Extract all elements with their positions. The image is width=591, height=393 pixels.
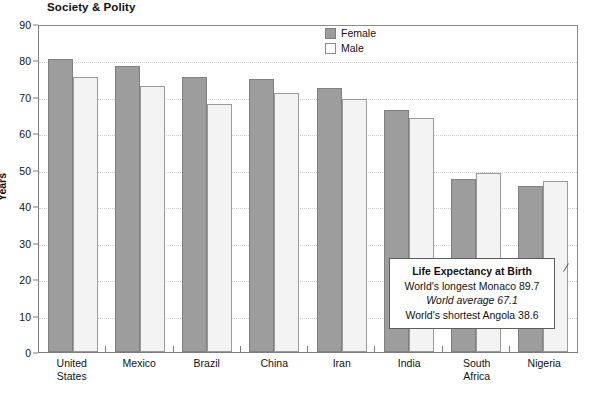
callout-longest: World's longest Monaco 89.7 (396, 279, 548, 294)
bar-female[interactable] (317, 88, 342, 352)
y-axis-tick-label: 20 (19, 274, 31, 286)
x-axis-labels: UnitedStatesMexicoBrazilChinaIranIndiaSo… (38, 355, 578, 391)
legend-label-male: Male (341, 42, 364, 54)
scan-artifact-icon (562, 262, 570, 273)
legend-swatch-female-icon (325, 28, 336, 39)
y-axis: Years 0102030405060708090 (0, 25, 38, 353)
y-axis-tick-label: 40 (19, 201, 31, 213)
bar-female[interactable] (48, 59, 73, 352)
callout-average: World average 67.1 (396, 293, 548, 308)
bar-female[interactable] (115, 66, 140, 352)
bar-male[interactable] (73, 77, 98, 352)
y-axis-tick-label: 50 (19, 165, 31, 177)
y-axis-tick-label: 30 (19, 238, 31, 250)
chart-page: Society & Polity Years 01020304050607080… (0, 0, 591, 393)
legend-item-male: Male (325, 42, 376, 54)
x-axis-label: China (241, 355, 309, 391)
bar-male[interactable] (207, 104, 232, 352)
callout-shortest: World's shortest Angola 38.6 (396, 308, 548, 323)
bar-female[interactable] (182, 77, 207, 352)
y-axis-tick-label: 60 (19, 128, 31, 140)
x-axis-label: SouthAfrica (443, 355, 511, 391)
y-axis-tick-label: 0 (25, 347, 31, 359)
x-axis-label: Nigeria (511, 355, 579, 391)
callout-title: Life Expectancy at Birth (396, 264, 548, 279)
x-axis-label: Iran (308, 355, 376, 391)
y-axis-tick-label: 10 (19, 311, 31, 323)
bar-group (241, 26, 308, 352)
page-title: Society & Polity (47, 1, 136, 13)
y-axis-tick-label: 80 (19, 55, 31, 67)
bar-group (39, 26, 106, 352)
bar-male[interactable] (342, 99, 367, 352)
callout-box: Life Expectancy at Birth World's longest… (389, 258, 555, 329)
bar-group (308, 26, 375, 352)
bar-group (106, 26, 173, 352)
legend-label-female: Female (341, 27, 376, 39)
legend-swatch-male-icon (325, 43, 336, 54)
bar-female[interactable] (249, 79, 274, 352)
legend-item-female: Female (325, 27, 376, 39)
x-axis-label: UnitedStates (38, 355, 106, 391)
y-axis-title: Years (0, 173, 8, 201)
legend: Female Male (325, 27, 376, 54)
y-axis-tick-label: 90 (19, 19, 31, 31)
bar-male[interactable] (140, 86, 165, 352)
x-axis-label: Mexico (106, 355, 174, 391)
bar-group (174, 26, 241, 352)
x-axis-label: India (376, 355, 444, 391)
x-axis-label: Brazil (173, 355, 241, 391)
bar-male[interactable] (274, 93, 299, 352)
y-axis-tick-label: 70 (19, 92, 31, 104)
